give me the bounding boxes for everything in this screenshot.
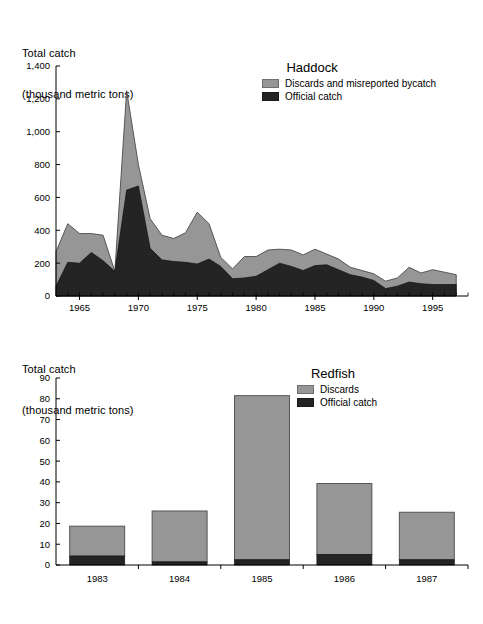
svg-text:0: 0 (45, 559, 50, 570)
redfish-plot: 010203040506070809019831984198519861987 (0, 330, 483, 624)
figure-two-panel-catch-charts: Total catch (thousand metric tons) 02004… (0, 0, 483, 624)
svg-text:1983: 1983 (87, 573, 108, 584)
svg-text:10: 10 (39, 539, 50, 550)
svg-text:0: 0 (45, 290, 50, 301)
svg-text:1986: 1986 (334, 573, 355, 584)
svg-text:400: 400 (34, 225, 50, 236)
legend-label-official: Official catch (285, 91, 342, 102)
svg-text:1980: 1980 (246, 302, 267, 313)
svg-text:600: 600 (34, 192, 50, 203)
svg-text:1975: 1975 (187, 302, 208, 313)
legend-label-redfish-discards: Discards (320, 384, 359, 395)
svg-text:40: 40 (39, 476, 50, 487)
svg-text:1995: 1995 (422, 302, 443, 313)
svg-text:1,200: 1,200 (26, 93, 50, 104)
svg-text:60: 60 (39, 435, 50, 446)
svg-text:80: 80 (39, 393, 50, 404)
svg-text:30: 30 (39, 497, 50, 508)
legend-label-redfish-official: Official catch (320, 397, 377, 408)
svg-text:800: 800 (34, 159, 50, 170)
svg-text:1,400: 1,400 (26, 60, 50, 71)
haddock-plot: 02004006008001,0001,2001,400196519701975… (0, 0, 483, 330)
legend-swatch-redfish-official-icon (297, 398, 314, 407)
svg-text:1990: 1990 (363, 302, 384, 313)
legend-item-discards: Discards and misreported bycatch (262, 78, 436, 89)
panel-haddock: Total catch (thousand metric tons) 02004… (0, 0, 483, 330)
svg-text:1987: 1987 (416, 573, 437, 584)
haddock-legend-title: Haddock (262, 60, 436, 75)
legend-item-redfish-discards: Discards (297, 384, 377, 395)
svg-text:50: 50 (39, 456, 50, 467)
svg-text:1985: 1985 (304, 302, 325, 313)
legend-swatch-redfish-discards-icon (297, 385, 314, 394)
svg-text:1965: 1965 (69, 302, 90, 313)
legend-swatch-discards-icon (262, 79, 279, 88)
svg-text:20: 20 (39, 518, 50, 529)
svg-text:1,000: 1,000 (26, 126, 50, 137)
panel-redfish: Total catch (thousand metric tons) 01020… (0, 330, 483, 624)
redfish-legend: Redfish Discards Official catch (297, 366, 377, 410)
svg-text:200: 200 (34, 258, 50, 269)
svg-text:1984: 1984 (169, 573, 190, 584)
svg-text:1970: 1970 (128, 302, 149, 313)
legend-item-redfish-official: Official catch (297, 397, 377, 408)
legend-swatch-official-icon (262, 92, 279, 101)
svg-text:1985: 1985 (251, 573, 272, 584)
haddock-legend: Haddock Discards and misreported bycatch… (262, 60, 436, 104)
legend-label-discards: Discards and misreported bycatch (285, 78, 436, 89)
svg-text:90: 90 (39, 372, 50, 383)
svg-text:70: 70 (39, 414, 50, 425)
redfish-legend-title: Redfish (297, 366, 377, 381)
legend-item-official: Official catch (262, 91, 436, 102)
